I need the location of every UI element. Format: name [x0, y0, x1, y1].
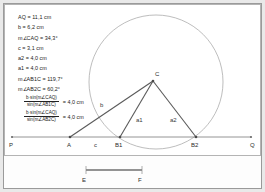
measure-c: c = 3,1 cm: [18, 43, 123, 53]
measure-a1: a1 = 4,0 cm: [18, 63, 123, 73]
point-b2[interactable]: [195, 136, 198, 139]
segment-ef-drawing: E F: [4, 158, 261, 187]
segment-strip: E F: [4, 158, 261, 187]
measure-angle-caq: m∠CAQ = 34,3°: [18, 33, 123, 43]
label-point-b1: B1: [115, 142, 123, 148]
label-point-b2: B2: [191, 142, 199, 148]
point-a[interactable]: [69, 136, 72, 139]
measure-b: b = 6,2 cm: [18, 22, 123, 32]
label-point-a: A: [67, 142, 71, 148]
measure-angle-ab2c: m∠AB2C = 60,2°: [18, 84, 123, 94]
fraction-b1: b·sin(m∠CAQ) sin(m∠AB1C): [24, 96, 59, 107]
measure-aq: AQ = 11,1 cm: [18, 12, 123, 22]
label-point-e: E: [82, 177, 86, 183]
measure-a2: a2 = 4,0 cm: [18, 53, 123, 63]
label-point-p: P: [9, 142, 13, 148]
law-of-sines-b1: b·sin(m∠CAQ) sin(m∠AB1C) = 4,0 cm: [24, 94, 123, 109]
fraction-b2-result: = 4,0 cm: [63, 114, 84, 120]
fraction-b2: b·sin(m∠CAQ) sin(m∠AB2C): [24, 111, 59, 122]
point-p[interactable]: [11, 136, 13, 138]
point-b1[interactable]: [119, 136, 122, 139]
measure-angle-ab1c: m∠AB1C = 119,7°: [18, 74, 123, 84]
fraction-b1-denominator: sin(m∠AB1C): [25, 102, 58, 107]
geometry-canvas[interactable]: P A B1 B2 Q C b c a1 a2 AQ = 11,1 cm b =…: [4, 4, 261, 156]
label-side-c: c: [94, 142, 97, 148]
fraction-b1-result: = 4,0 cm: [63, 99, 84, 105]
segment-cb1: [120, 81, 153, 137]
law-of-sines-b2: b·sin(m∠CAQ) sin(m∠AB2C) = 4,0 cm: [24, 109, 123, 124]
geometry-app: P A B1 B2 Q C b c a1 a2 AQ = 11,1 cm b =…: [0, 0, 265, 192]
label-side-a2: a2: [170, 117, 177, 123]
label-point-f: F: [138, 177, 142, 183]
label-point-c: C: [155, 71, 160, 77]
segment-cb2: [153, 81, 196, 137]
label-side-a1: a1: [136, 117, 143, 123]
fraction-b2-denominator: sin(m∠AB2C): [25, 117, 58, 122]
algebra-panel: AQ = 11,1 cm b = 6,2 cm m∠CAQ = 34,3° c …: [18, 12, 123, 124]
point-c[interactable]: [152, 80, 155, 83]
label-point-q: Q: [250, 142, 255, 148]
point-q[interactable]: [250, 136, 252, 138]
